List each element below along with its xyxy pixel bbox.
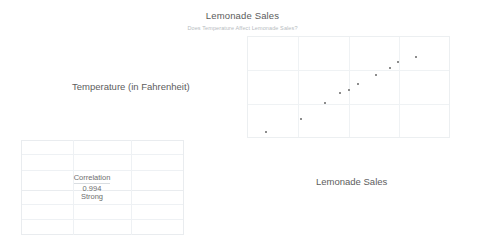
sheet-row-line: [21, 154, 184, 155]
gridline-horizontal: [248, 104, 449, 105]
gridline-vertical: [349, 37, 350, 137]
correlation-label: Correlation: [74, 174, 111, 184]
data-point: [265, 131, 267, 133]
gridline-horizontal: [248, 70, 449, 71]
sheet-row-line: [21, 234, 184, 235]
data-point: [357, 83, 359, 85]
correlation-strength: Strong: [56, 193, 128, 201]
data-point: [348, 89, 350, 91]
sheet-col-line: [183, 140, 184, 235]
sheet-row-line: [21, 140, 184, 141]
plot-area: [247, 36, 450, 138]
gridline-vertical: [399, 37, 400, 137]
document-canvas: Correlation 0.994 Strong Lemonade Sales …: [0, 0, 485, 248]
sheet-row-line: [21, 204, 184, 205]
scatter-chart[interactable]: [247, 36, 450, 138]
sheet-col-line: [21, 140, 22, 235]
data-point: [339, 92, 341, 94]
axis-label-y: Temperature (in Fahrenheit): [72, 81, 190, 92]
sheet-col-line: [131, 140, 132, 235]
chart-subtitle: Does Temperature Affect Lemonade Sales?: [0, 25, 485, 31]
data-point: [324, 102, 326, 104]
data-point: [300, 118, 302, 120]
correlation-summary: Correlation 0.994 Strong: [56, 166, 128, 201]
axis-label-x: Lemonade Sales: [316, 176, 387, 187]
data-point: [389, 67, 391, 69]
data-point: [375, 74, 377, 76]
data-point: [397, 61, 399, 63]
chart-title: Lemonade Sales: [0, 10, 485, 21]
gridline-vertical: [298, 37, 299, 137]
sheet-row-line: [21, 219, 184, 220]
data-point: [415, 56, 417, 58]
